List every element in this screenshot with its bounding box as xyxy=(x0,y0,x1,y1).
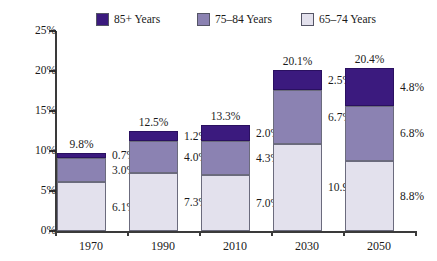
x-axis-label-2010: 2010 xyxy=(205,239,265,253)
bar-segment[interactable] xyxy=(345,161,394,231)
x-axis-tick xyxy=(55,231,57,236)
x-axis-label-2050: 2050 xyxy=(349,239,409,253)
x-axis-tick xyxy=(271,231,273,236)
y-axis-tick-label: 20% xyxy=(14,65,56,77)
bar-group-2010[interactable] xyxy=(201,31,250,231)
bar-total-label: 20.1% xyxy=(263,55,333,67)
bar-segment[interactable] xyxy=(57,182,106,231)
x-axis-tick xyxy=(199,231,201,236)
bar-total-label: 13.3% xyxy=(191,110,261,122)
bar-segment[interactable] xyxy=(345,68,394,106)
bar-segment[interactable] xyxy=(201,141,250,175)
bar-group-1970[interactable] xyxy=(57,31,106,231)
bar-segment[interactable] xyxy=(129,173,178,231)
legend-label-75-84: 75–84 Years xyxy=(215,13,272,26)
legend-swatch-85-plus xyxy=(96,13,109,26)
bar-segment[interactable] xyxy=(273,90,322,144)
y-axis-tick-label: 25% xyxy=(14,25,56,37)
bar-segment[interactable] xyxy=(273,70,322,90)
legend-item-85-plus: 85+ Years xyxy=(96,11,160,27)
x-axis-line xyxy=(55,231,416,233)
segment-value-label: 4.8% xyxy=(400,81,424,93)
stacked-bar-chart: 85+ Years 75–84 Years 65–74 Years 0%5%10… xyxy=(0,0,437,261)
bar-segment[interactable] xyxy=(273,144,322,231)
x-axis-label-1990: 1990 xyxy=(133,239,193,253)
segment-value-label: 8.8% xyxy=(400,190,424,202)
y-axis-tick-label: 15% xyxy=(14,105,56,117)
legend-item-65-74: 65–74 Years xyxy=(301,11,376,27)
bar-total-label: 9.8% xyxy=(47,138,117,150)
legend-swatch-65-74 xyxy=(301,13,314,26)
bar-segment[interactable] xyxy=(201,125,250,141)
bar-segment[interactable] xyxy=(129,141,178,173)
y-axis-tick-label: 0% xyxy=(14,225,56,237)
x-axis-label-2030: 2030 xyxy=(277,239,337,253)
x-axis-label-1970: 1970 xyxy=(61,239,121,253)
chart-legend: 85+ Years 75–84 Years 65–74 Years xyxy=(96,11,426,31)
bar-segment[interactable] xyxy=(201,175,250,231)
bar-total-label: 20.4% xyxy=(335,53,405,65)
x-axis-tick xyxy=(415,231,417,236)
bar-total-label: 12.5% xyxy=(119,116,189,128)
bar-segment[interactable] xyxy=(129,131,178,141)
legend-item-75-84: 75–84 Years xyxy=(197,11,272,27)
bar-segment[interactable] xyxy=(345,106,394,160)
legend-swatch-75-84 xyxy=(197,13,210,26)
bar-segment[interactable] xyxy=(57,153,106,159)
x-axis-tick xyxy=(127,231,129,236)
bar-group-1990[interactable] xyxy=(129,31,178,231)
bar-segment[interactable] xyxy=(57,158,106,182)
y-axis-tick-label: 5% xyxy=(14,185,56,197)
legend-label-85-plus: 85+ Years xyxy=(114,13,160,26)
legend-label-65-74: 65–74 Years xyxy=(319,13,376,26)
x-axis-tick xyxy=(343,231,345,236)
segment-value-label: 6.8% xyxy=(400,127,424,139)
